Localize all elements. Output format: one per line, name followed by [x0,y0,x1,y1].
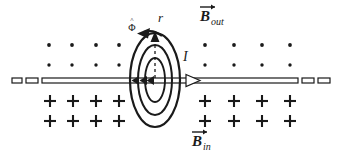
field-dot [232,43,236,47]
wire-dash [12,78,22,83]
vector-bar-arrowhead [211,5,215,10]
field-dot [260,63,263,66]
field-dot [70,63,73,66]
current-arrowhead [186,75,200,87]
loop-direction-arrowheads [132,76,155,85]
label-current: I [182,49,189,64]
field-pluses-left [44,95,125,127]
field-dot [47,63,50,66]
field-dot [203,43,207,47]
wire-dash [302,78,314,83]
diagram-canvas: B out B in ^ Φ r I [0,0,345,160]
field-plus [284,95,296,107]
field-dot [70,43,74,47]
b-in-symbol: B [191,133,202,149]
field-plus [113,115,125,127]
loop-arrowhead [147,76,155,85]
b-out-subscript: out [211,16,224,27]
field-dot [94,43,98,47]
field-dots-right [203,43,292,67]
wire-dash [318,78,330,83]
b-in-subscript: in [203,141,211,152]
field-dot [117,43,121,47]
wire-body [42,78,298,83]
field-dot [94,63,97,66]
physics-field-diagram: B out B in ^ Φ r I [0,0,345,160]
field-plus [90,95,102,107]
field-plus [284,115,296,127]
loop-arrowhead [140,76,148,85]
loop-arrowhead [132,76,140,85]
current-direction-arrow [186,75,200,87]
label-b-in: B in [191,130,211,152]
field-dot [203,63,206,66]
label-radius: r [158,10,164,25]
label-phi-hat: ^ Φ [128,16,135,33]
b-out-symbol: B [199,8,210,24]
field-plus [67,95,79,107]
radius-dashed-line [151,31,160,78]
field-plus [67,115,79,127]
field-plus [256,115,268,127]
field-pluses-right [199,95,296,127]
label-b-out: B out [199,5,224,27]
field-dot [117,63,120,66]
field-plus [44,115,56,127]
field-dots-left [47,43,121,67]
wire-dash [26,78,38,83]
field-plus [90,115,102,127]
vector-bar-arrowhead [203,130,207,135]
field-plus [199,95,211,107]
field-plus [256,95,268,107]
field-dot [260,43,264,47]
field-dot [47,43,51,47]
field-plus [113,95,125,107]
field-dot [288,63,291,66]
phi-hat-symbol: Φ [128,22,135,33]
field-dot [232,63,235,66]
field-plus [199,115,211,127]
field-plus [228,95,240,107]
field-plus [228,115,240,127]
field-dot [288,43,292,47]
field-plus [44,95,56,107]
